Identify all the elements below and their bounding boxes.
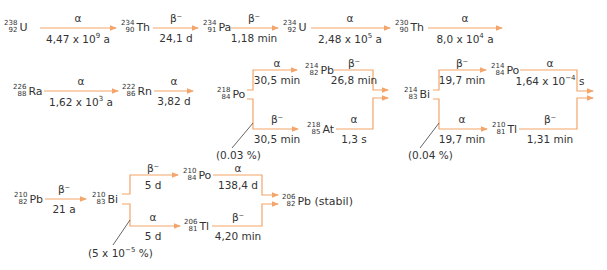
nuclide-po210: 21084Po	[183, 168, 211, 182]
nuclide-bi210: 21083Bi	[92, 192, 118, 206]
decay-mode-label: α	[347, 13, 354, 24]
nuclide-at218: 21885At	[307, 122, 334, 136]
atomic-number: 85	[307, 129, 320, 136]
atomic-number: 82	[14, 199, 27, 206]
element-symbol: Po	[198, 169, 211, 182]
nuclide-bi214: 21483Bi	[404, 87, 430, 101]
halflife-label: 1,64 x 10−4 s	[516, 75, 585, 86]
decay-mode-label: α	[459, 114, 466, 125]
decay-mode-label: α	[235, 163, 242, 174]
branch-ratio-label: (0.04 %)	[408, 150, 453, 161]
halflife-label: 24,1 d	[159, 33, 192, 44]
element-symbol: Bi	[107, 193, 118, 206]
nuclide-tl206: 20681Tl	[184, 219, 209, 233]
decay-mode-label: α	[171, 76, 178, 87]
halflife-label: 1,31 min	[527, 134, 574, 145]
element-symbol: Th	[136, 21, 150, 34]
decay-mode-label: α	[462, 13, 469, 24]
element-symbol: Pb (stabil)	[297, 195, 353, 208]
halflife-label: 30,5 min	[254, 134, 301, 145]
element-symbol: Tl	[507, 123, 517, 136]
halflife-label: 138,4 d	[218, 180, 258, 191]
decay-mode-label: β⁻	[232, 212, 244, 223]
nuclide-u238: 23892U	[4, 20, 27, 34]
atomic-number: 90	[395, 27, 408, 34]
halflife-label: 30,5 min	[254, 75, 301, 86]
decay-mode-label: α	[150, 212, 157, 223]
arrow-tl206-pb206	[212, 204, 278, 226]
halflife-unit: a	[484, 33, 494, 45]
halflife-label: 8,0 x 104 a	[436, 33, 493, 44]
element-symbol: U	[19, 21, 27, 34]
element-symbol: Po	[232, 88, 245, 101]
halflife-unit: a	[100, 33, 110, 45]
decay-mode-label: α	[547, 58, 554, 69]
halflife-exponent: −4	[565, 74, 575, 82]
nuclide-pb210: 21082Pb	[14, 192, 43, 206]
arrow-at218-bi214	[336, 98, 388, 129]
nuclide-th230: 23090Th	[395, 20, 424, 34]
element-symbol: Pa	[218, 21, 231, 34]
atomic-number: 81	[492, 129, 505, 136]
halflife-base: 8,0 x 10	[436, 33, 479, 45]
element-symbol: Tl	[199, 220, 209, 233]
atomic-number: 84	[217, 94, 230, 101]
halflife-unit: a	[372, 33, 382, 45]
branch-ratio-label: (0.03 %)	[216, 150, 261, 161]
atomic-number: 83	[404, 94, 417, 101]
element-symbol: U	[298, 21, 306, 34]
halflife-base: 4,47 x 10	[46, 33, 96, 45]
atomic-number: 84	[183, 175, 196, 182]
decay-mode-label: α	[274, 58, 281, 69]
halflife-label: 1,3 s	[341, 134, 367, 145]
halflife-label: 26,8 min	[331, 75, 378, 86]
halflife-unit: a	[103, 96, 113, 108]
halflife-label: 4,47 x 109 a	[46, 33, 110, 44]
atomic-number: 84	[491, 70, 504, 77]
decay-mode-label: β⁻	[147, 163, 159, 174]
nuclide-th234: 23490Th	[121, 20, 150, 34]
atomic-number: 88	[13, 91, 26, 98]
decay-mode-label: β⁻	[271, 114, 283, 125]
nuclide-u234: 23492U	[283, 20, 306, 34]
nuclide-pb206-stable: 20682Pb (stabil)	[282, 194, 353, 208]
decay-mode-label: β⁻	[170, 13, 182, 24]
atomic-number: 91	[203, 27, 216, 34]
atomic-number: 82	[282, 201, 295, 208]
branch-ratio-label: (5 x 10−5 %)	[88, 247, 153, 258]
element-symbol: Pb	[29, 193, 43, 206]
branch-leader-po218	[232, 123, 253, 148]
halflife-label: 21 a	[52, 204, 75, 215]
decay-mode-label: β⁻	[456, 58, 468, 69]
halflife-label: 1,62 x 103 a	[49, 96, 113, 107]
decay-mode-label: β⁻	[348, 58, 360, 69]
halflife-label: 19,7 min	[439, 134, 486, 145]
branch-exponent: −5	[125, 246, 135, 254]
decay-mode-label: β⁻	[58, 184, 70, 195]
nuclide-tl210: 21081Tl	[492, 122, 517, 136]
nuclide-po218: 21884Po	[217, 87, 245, 101]
branch-unit: %)	[135, 247, 152, 259]
halflife-base: 1,62 x 10	[49, 96, 99, 108]
element-symbol: Rn	[137, 85, 152, 98]
halflife-unit: s	[576, 75, 585, 87]
atomic-number: 81	[184, 226, 197, 233]
nuclide-ra226: 22688Ra	[13, 84, 43, 98]
branch-leader-bi210	[113, 220, 130, 245]
element-symbol: At	[322, 123, 334, 136]
decay-mode-label: α	[78, 76, 85, 87]
atomic-number: 86	[122, 91, 135, 98]
halflife-label: 19,7 min	[439, 75, 486, 86]
decay-mode-label: α	[351, 114, 358, 125]
halflife-label: 3,82 d	[157, 96, 190, 107]
atomic-number: 82	[305, 70, 318, 77]
halflife-label: 5 d	[145, 231, 162, 242]
decay-mode-label: α	[75, 13, 82, 24]
nuclide-pa234: 23491Pa	[203, 20, 231, 34]
element-symbol: Th	[410, 21, 424, 34]
halflife-base: 2,48 x 10	[318, 33, 368, 45]
branch-leader-bi214	[420, 123, 439, 148]
nuclide-rn222: 22286Rn	[122, 84, 152, 98]
atomic-number: 92	[4, 27, 17, 34]
halflife-label: 2,48 x 105 a	[318, 33, 382, 44]
